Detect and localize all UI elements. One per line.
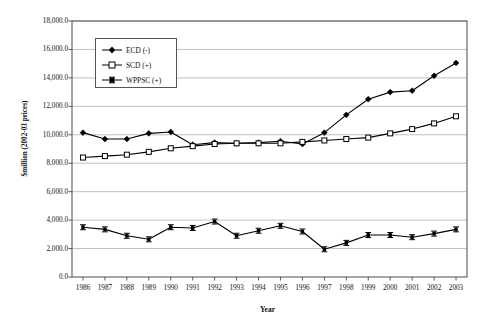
x-axis-title: Year bbox=[75, 305, 460, 314]
series-wppsc bbox=[80, 219, 459, 252]
y-tick-label: 6,000.0 bbox=[46, 188, 68, 196]
legend-key-wppsc-icon bbox=[101, 75, 123, 85]
plot-area bbox=[0, 0, 496, 327]
legend-item-ecd: ECD (-) bbox=[101, 43, 150, 57]
y-tick-label: 10,000.0 bbox=[43, 131, 68, 139]
y-tick-label: 2,000.0 bbox=[46, 245, 68, 253]
legend-item-scd: SCD (+) bbox=[101, 58, 151, 72]
y-tick-label: 16,000.0 bbox=[43, 45, 68, 53]
chart-legend: ECD (-) SCD (+) WPPSC (+) bbox=[95, 38, 177, 88]
y-tick-label: 18,000.0 bbox=[43, 17, 68, 25]
y-tick-label: 14,000.0 bbox=[43, 74, 68, 82]
y-tick-label: 12,000.0 bbox=[43, 102, 68, 110]
legend-label-ecd: ECD (-) bbox=[126, 46, 150, 55]
legend-item-wppsc: WPPSC (+) bbox=[101, 73, 161, 87]
y-tick-label: 8,000.0 bbox=[46, 159, 68, 167]
y-tick-label: 4,000.0 bbox=[46, 216, 68, 224]
legend-key-scd-icon bbox=[101, 60, 123, 70]
legend-label-wppsc: WPPSC (+) bbox=[126, 76, 161, 85]
y-tick-label: 0.0 bbox=[59, 273, 68, 281]
legend-label-scd: SCD (+) bbox=[126, 61, 151, 70]
x-tick-label: 2003 bbox=[441, 284, 471, 292]
legend-key-ecd-icon bbox=[101, 45, 123, 55]
chart-container: $million (2002-03 prices) 0.02,000.04,00… bbox=[0, 0, 496, 327]
